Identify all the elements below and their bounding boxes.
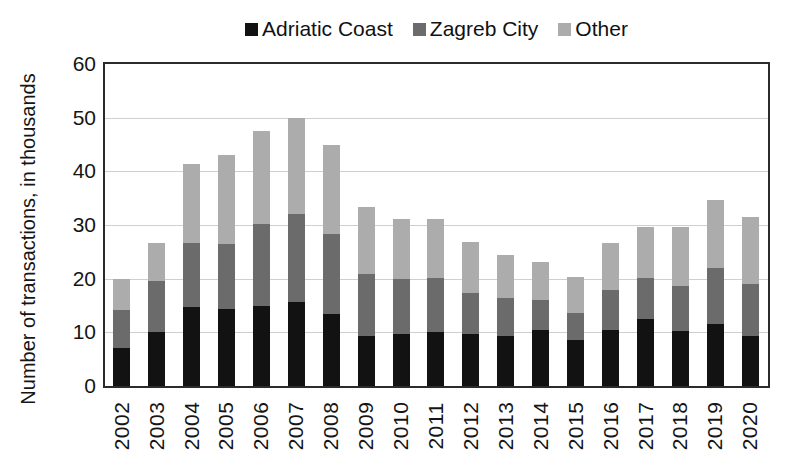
- bar-group-2010: [393, 219, 410, 386]
- bar-segment-other-2012: [462, 242, 479, 293]
- bar-segment-zagreb-city-2014: [532, 300, 549, 330]
- y-tick-label-30: 30: [28, 212, 96, 238]
- bar-group-2004: [183, 164, 200, 386]
- bar-segment-other-2010: [393, 219, 410, 279]
- bar-segment-zagreb-city-2013: [497, 298, 514, 336]
- bar-segment-other-2002: [113, 279, 130, 310]
- bar-group-2016: [602, 243, 619, 386]
- bar-group-2019: [707, 200, 724, 386]
- bar-segment-zagreb-city-2005: [218, 244, 235, 309]
- x-tick-label-2004: 2004: [181, 396, 203, 456]
- legend-item-1: Zagreb City: [413, 14, 539, 44]
- x-tick-label-2003: 2003: [146, 396, 168, 456]
- x-tick-label-2018: 2018: [669, 396, 691, 456]
- bar-group-2005: [218, 155, 235, 386]
- x-tick-label-2008: 2008: [320, 396, 342, 456]
- bar-segment-other-2015: [567, 277, 584, 312]
- bar-segment-other-2016: [602, 243, 619, 291]
- bar-segment-zagreb-city-2008: [323, 234, 340, 315]
- x-tick-label-2009: 2009: [355, 396, 377, 456]
- legend: Adriatic CoastZagreb CityOther: [103, 14, 770, 44]
- x-tick-label-2007: 2007: [285, 396, 307, 456]
- bar-group-2007: [288, 118, 305, 386]
- bar-segment-adriatic-coast-2005: [218, 309, 235, 386]
- bar-segment-zagreb-city-2004: [183, 243, 200, 306]
- bar-segment-zagreb-city-2003: [148, 281, 165, 332]
- bar-segment-other-2018: [672, 227, 689, 287]
- legend-label: Other: [575, 14, 628, 44]
- bar-segment-other-2013: [497, 255, 514, 298]
- bar-segment-zagreb-city-2012: [462, 293, 479, 334]
- bar-group-2017: [637, 227, 654, 386]
- bar-group-2014: [532, 262, 549, 386]
- legend-item-0: Adriatic Coast: [245, 14, 393, 44]
- bar-group-2011: [427, 219, 444, 386]
- legend-label: Zagreb City: [430, 14, 539, 44]
- legend-label: Adriatic Coast: [262, 14, 393, 44]
- bar-group-2015: [567, 277, 584, 386]
- bar-segment-zagreb-city-2010: [393, 279, 410, 335]
- bar-segment-zagreb-city-2016: [602, 290, 619, 329]
- bar-segment-adriatic-coast-2006: [253, 306, 270, 387]
- bar-group-2020: [742, 217, 759, 386]
- bar-segment-zagreb-city-2009: [358, 274, 375, 335]
- bar-segment-adriatic-coast-2011: [427, 332, 444, 386]
- bar-segment-zagreb-city-2006: [253, 224, 270, 306]
- stacked-bar-chart-figure: Adriatic CoastZagreb CityOther Number of…: [0, 0, 798, 476]
- gridline-40: [105, 171, 768, 172]
- x-tick-label-2012: 2012: [460, 396, 482, 456]
- x-tick-label-2005: 2005: [215, 396, 237, 456]
- x-tick-label-2002: 2002: [111, 396, 133, 456]
- bar-segment-adriatic-coast-2012: [462, 334, 479, 386]
- bar-segment-zagreb-city-2011: [427, 278, 444, 332]
- bar-segment-zagreb-city-2007: [288, 214, 305, 303]
- bar-segment-zagreb-city-2018: [672, 286, 689, 331]
- bar-segment-other-2014: [532, 262, 549, 301]
- bar-segment-other-2017: [637, 227, 654, 278]
- legend-swatch-icon: [558, 23, 571, 36]
- y-tick-label-50: 50: [28, 105, 96, 131]
- bar-segment-other-2006: [253, 131, 270, 224]
- bar-segment-adriatic-coast-2016: [602, 330, 619, 386]
- y-tick-label-40: 40: [28, 158, 96, 184]
- bar-segment-adriatic-coast-2007: [288, 302, 305, 386]
- bar-segment-zagreb-city-2017: [637, 278, 654, 319]
- bar-segment-adriatic-coast-2014: [532, 330, 549, 386]
- bar-group-2008: [323, 145, 340, 386]
- bar-segment-adriatic-coast-2004: [183, 307, 200, 386]
- y-tick-label-10: 10: [28, 319, 96, 345]
- x-tick-label-2016: 2016: [600, 396, 622, 456]
- bar-group-2009: [358, 207, 375, 386]
- bar-segment-adriatic-coast-2013: [497, 336, 514, 386]
- bar-segment-adriatic-coast-2020: [742, 336, 759, 386]
- bar-segment-other-2009: [358, 207, 375, 274]
- x-tick-label-2020: 2020: [739, 396, 761, 456]
- legend-swatch-icon: [245, 23, 258, 36]
- x-tick-label-2014: 2014: [530, 396, 552, 456]
- plot-area: [103, 62, 770, 388]
- y-tick-label-20: 20: [28, 266, 96, 292]
- bar-segment-other-2005: [218, 155, 235, 244]
- legend-item-2: Other: [558, 14, 628, 44]
- bar-segment-zagreb-city-2020: [742, 284, 759, 337]
- bar-segment-other-2019: [707, 200, 724, 268]
- bar-segment-adriatic-coast-2002: [113, 348, 130, 386]
- bar-group-2018: [672, 227, 689, 386]
- gridline-50: [105, 118, 768, 119]
- y-tick-label-60: 60: [28, 51, 96, 77]
- x-tick-label-2019: 2019: [704, 396, 726, 456]
- bar-group-2003: [148, 243, 165, 386]
- bar-segment-adriatic-coast-2019: [707, 324, 724, 386]
- bar-group-2013: [497, 255, 514, 386]
- bar-segment-other-2004: [183, 164, 200, 243]
- bar-segment-zagreb-city-2015: [567, 313, 584, 340]
- bar-group-2002: [113, 279, 130, 386]
- bar-segment-adriatic-coast-2015: [567, 340, 584, 386]
- bar-segment-other-2008: [323, 145, 340, 234]
- x-tick-label-2013: 2013: [495, 396, 517, 456]
- x-tick-label-2010: 2010: [390, 396, 412, 456]
- y-tick-label-0: 0: [28, 373, 96, 399]
- legend-swatch-icon: [413, 23, 426, 36]
- bar-segment-other-2020: [742, 217, 759, 284]
- bar-segment-other-2007: [288, 118, 305, 214]
